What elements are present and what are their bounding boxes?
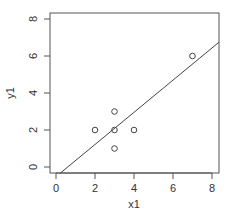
y-tick-label: 4 bbox=[27, 90, 39, 96]
x-tick-label: 4 bbox=[131, 182, 137, 194]
x-tick-label: 0 bbox=[53, 182, 59, 194]
plot-canvas: 02468 02468 x1 y1 bbox=[0, 0, 229, 219]
x-axis: 02468 bbox=[53, 173, 215, 194]
scatter-plot: 02468 02468 x1 y1 bbox=[0, 0, 229, 219]
x-tick-label: 8 bbox=[209, 182, 215, 194]
data-point bbox=[112, 109, 118, 115]
y-axis: 02468 bbox=[27, 16, 50, 170]
data-point bbox=[131, 127, 137, 133]
data-points bbox=[92, 53, 195, 151]
x-axis-label: x1 bbox=[128, 198, 140, 210]
x-tick-label: 6 bbox=[170, 182, 176, 194]
y-tick-label: 0 bbox=[27, 164, 39, 170]
plot-box bbox=[50, 13, 219, 173]
y-tick-label: 8 bbox=[27, 16, 39, 22]
x-tick-label: 2 bbox=[92, 182, 98, 194]
y-axis-label: y1 bbox=[4, 87, 16, 99]
y-tick-label: 2 bbox=[27, 127, 39, 133]
y-tick-label: 6 bbox=[27, 53, 39, 59]
data-point bbox=[190, 53, 196, 59]
data-point bbox=[92, 127, 98, 133]
data-point bbox=[112, 146, 118, 152]
fit-line bbox=[60, 42, 219, 173]
regression-line bbox=[60, 42, 219, 173]
